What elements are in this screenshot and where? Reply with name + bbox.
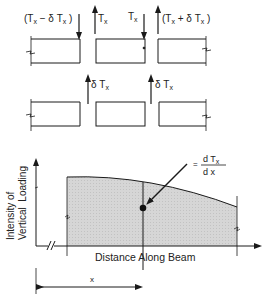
annotation-denominator: d x [203,167,216,177]
dimension-label: x [90,275,94,284]
second-row-segments [26,99,211,131]
segment-2-bottom [96,102,145,126]
x-axis-label: Distance Along Beam [95,251,196,263]
label-delta-tx-left: δ Tx [91,79,109,91]
annotation-numerator: d Tx [203,154,220,165]
break-mark-icon [26,51,35,54]
segment-3-top [158,39,206,63]
break-mark-icon [202,48,211,51]
break-mark-icon [202,115,211,118]
segment-1-top [31,39,80,63]
label-tx-minus-dtx: (Tx − δ Tx ) [24,13,72,25]
top-row-arrows [79,9,158,36]
y-axis-label-line2: Vertical Loading [17,166,28,240]
annotation-equals: = [193,160,198,169]
loading-chart [35,162,258,294]
break-mark-icon [26,114,35,117]
label-tx-plus-dtx: (Tx + δ Tx ) [162,13,210,25]
beam-load-diagram: (Tx − δ Tx ) Tx Tx (Tx + δ Tx ) δ Tx δ T… [0,0,269,303]
load-area [67,177,237,246]
segment-1-bottom [31,102,80,126]
segment-2-top [96,39,145,63]
label-tx-up: Tx [98,13,108,25]
load-point [140,205,147,212]
label-delta-tx-right: δ Tx [155,79,173,91]
top-row-segments [26,36,211,66]
segment-3-bottom [159,102,206,126]
y-axis-label-line1: Intensity of [5,191,16,240]
label-tx-down: Tx [128,11,138,23]
